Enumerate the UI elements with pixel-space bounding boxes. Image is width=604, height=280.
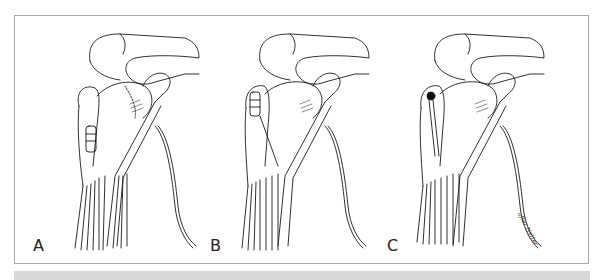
panel-label-a: A — [33, 238, 44, 254]
panel-a: A — [35, 16, 225, 264]
panel-label-c: C — [387, 238, 398, 254]
panel-c: after Netter C — [395, 16, 585, 264]
panel-label-b: B — [210, 238, 221, 254]
shoulder-illustration-c — [395, 16, 585, 264]
caption-band — [14, 271, 590, 280]
shoulder-illustration-b — [220, 16, 410, 264]
panel-b: B — [220, 16, 410, 264]
shoulder-illustration-a — [35, 16, 225, 264]
figure-frame: A B — [14, 15, 589, 264]
